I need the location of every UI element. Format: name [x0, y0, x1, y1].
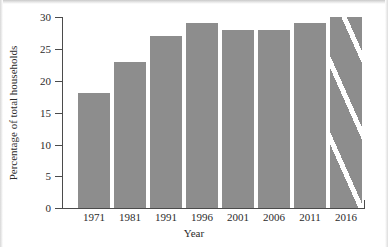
y-tick-label-0: 0: [21, 203, 51, 214]
x-tick-label-2016: 2016: [330, 211, 362, 224]
chart-page: 30 25 20 15 10 5 0 1971 1981 1991 1996 2…: [0, 0, 388, 247]
bar-2011: [294, 23, 326, 208]
y-tick-label-20: 20: [21, 76, 51, 87]
x-axis-title: Year: [0, 227, 388, 239]
bar-1971: [78, 93, 110, 208]
y-tick-mark-25: [55, 49, 63, 50]
x-tick-label-2006: 2006: [258, 211, 290, 224]
bar-2016: [330, 17, 362, 208]
x-tick-label-1996: 1996: [186, 211, 218, 224]
x-tick-label-1981: 1981: [114, 211, 146, 224]
y-tick-mark-10: [55, 145, 63, 146]
y-tick-mark-0: [55, 208, 63, 209]
y-axis-title: Percentage of total households: [7, 33, 19, 193]
bar-chart: 30 25 20 15 10 5 0 1971 1981 1991 1996 2…: [0, 0, 388, 247]
y-tick-label-5: 5: [21, 171, 51, 182]
bar-2001: [222, 30, 254, 208]
x-tick-label-2011: 2011: [294, 211, 326, 224]
bar-2006: [258, 30, 290, 208]
y-tick-mark-30: [55, 17, 63, 18]
x-tick-label-2001: 2001: [222, 211, 254, 224]
bar-1996: [186, 23, 218, 208]
y-tick-label-30: 30: [21, 12, 51, 23]
x-tick-label-1991: 1991: [150, 211, 182, 224]
bar-series: [63, 17, 365, 208]
y-tick-mark-15: [55, 113, 63, 114]
y-tick-label-15: 15: [21, 108, 51, 119]
x-axis-line: [62, 208, 365, 209]
y-tick-label-25: 25: [21, 44, 51, 55]
y-tick-mark-20: [55, 81, 63, 82]
bar-1981: [114, 62, 146, 208]
y-tick-label-10: 10: [21, 140, 51, 151]
x-tick-label-1971: 1971: [78, 211, 110, 224]
y-tick-mark-5: [55, 176, 63, 177]
bar-1991: [150, 36, 182, 208]
